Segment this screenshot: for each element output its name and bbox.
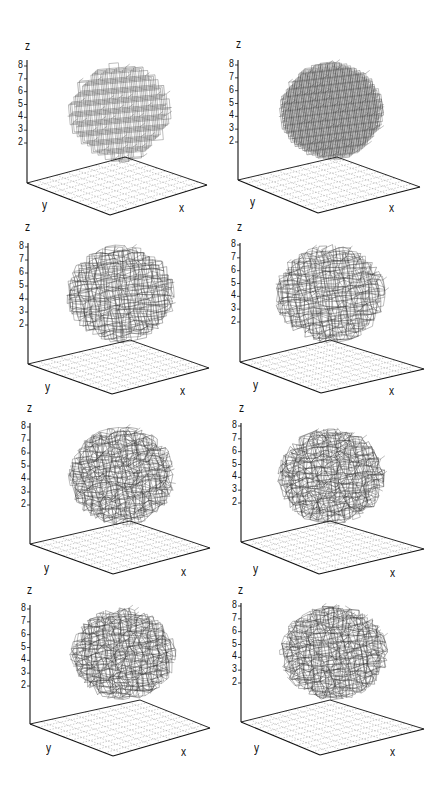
- z-axis-label: z: [238, 584, 243, 596]
- floor-edge: [241, 700, 330, 722]
- z-tick-label: 6: [232, 625, 237, 636]
- figure-grid: 2345678zyx2345678zyx2345678zyx2345678zyx…: [0, 0, 448, 800]
- z-tick-label: 5: [232, 638, 237, 649]
- floor-edge: [330, 700, 424, 729]
- y-axis-line: [241, 722, 320, 755]
- x-axis-line: [320, 729, 424, 755]
- z-tick-label: 3: [232, 663, 237, 674]
- z-tick-label: 7: [232, 612, 237, 623]
- y-axis-label: y: [254, 742, 259, 754]
- z-tick-label: 4: [232, 650, 237, 661]
- plot-canvas-8: [0, 0, 448, 800]
- z-tick-label: 2: [232, 676, 237, 687]
- x-axis-label: x: [390, 746, 395, 758]
- z-tick-label: 8: [232, 599, 237, 610]
